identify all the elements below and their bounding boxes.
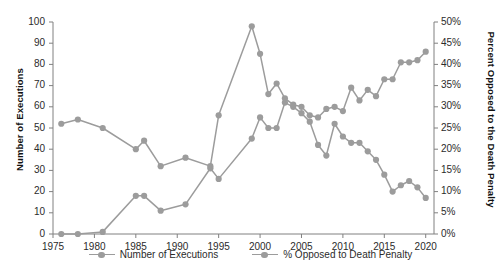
plot-area <box>0 0 501 272</box>
data-point <box>389 189 395 195</box>
y-axis-left-tick: 90 <box>11 37 45 48</box>
data-point <box>423 49 429 55</box>
data-point <box>340 108 346 114</box>
data-point <box>398 182 404 188</box>
legend-label-executions: Number of Executions <box>120 249 218 260</box>
data-point <box>340 133 346 139</box>
data-point <box>282 95 288 101</box>
data-point <box>381 172 387 178</box>
y-axis-right-tick: 5% <box>441 206 481 217</box>
data-point <box>182 201 188 207</box>
data-point <box>365 87 371 93</box>
data-point <box>356 97 362 103</box>
y-axis-right-tick: 25% <box>441 122 481 133</box>
data-point <box>100 229 106 235</box>
data-point <box>356 140 362 146</box>
data-point <box>75 231 81 237</box>
series-opposed <box>58 23 429 169</box>
data-point <box>100 125 106 131</box>
data-point <box>348 85 354 91</box>
data-point <box>265 125 271 131</box>
data-point <box>332 104 338 110</box>
y-axis-left-tick: 10 <box>11 206 45 217</box>
data-point <box>323 152 329 158</box>
chart-legend: Number of Executions % Opposed to Death … <box>0 249 501 260</box>
y-axis-left-tick: 60 <box>11 100 45 111</box>
data-point <box>315 114 321 120</box>
data-point <box>216 112 222 118</box>
y-axis-left-tick: 20 <box>11 185 45 196</box>
data-point <box>332 121 338 127</box>
y-axis-left-tick: 50 <box>11 122 45 133</box>
y-axis-right-tick: 0% <box>441 228 481 239</box>
data-point <box>373 157 379 163</box>
data-point <box>307 112 313 118</box>
data-point <box>389 76 395 82</box>
data-point <box>398 59 404 65</box>
data-point <box>414 57 420 63</box>
data-point <box>274 125 280 131</box>
data-point <box>365 148 371 154</box>
legend-item-opposed: % Opposed to Death Penalty <box>252 249 412 260</box>
data-point <box>216 176 222 182</box>
data-point <box>75 116 81 122</box>
legend-label-opposed: % Opposed to Death Penalty <box>283 249 412 260</box>
data-point <box>58 231 64 237</box>
series-executions <box>58 99 429 237</box>
y-axis-right-tick: 45% <box>441 37 481 48</box>
y-axis-right-tick: 35% <box>441 79 481 90</box>
data-point <box>158 163 164 169</box>
data-point <box>406 59 412 65</box>
y-axis-left-tick: 80 <box>11 58 45 69</box>
y-axis-right-tick: 40% <box>441 58 481 69</box>
data-point <box>58 121 64 127</box>
data-point <box>307 119 313 125</box>
dual-axis-line-chart: Number of Executions Percent Opposed to … <box>0 0 501 272</box>
data-point <box>290 102 296 108</box>
data-point <box>257 114 263 120</box>
data-point <box>348 140 354 146</box>
data-point <box>274 80 280 86</box>
y-axis-left-tick: 70 <box>11 79 45 90</box>
data-point <box>298 110 304 116</box>
legend-marker-executions <box>89 254 115 255</box>
y-axis-right-tick: 50% <box>441 16 481 27</box>
data-point <box>141 138 147 144</box>
data-point <box>249 136 255 142</box>
data-point <box>315 142 321 148</box>
data-point <box>133 146 139 152</box>
data-point <box>298 104 304 110</box>
data-point <box>423 195 429 201</box>
data-point <box>323 106 329 112</box>
data-point <box>141 193 147 199</box>
y-axis-right-tick: 20% <box>441 143 481 154</box>
data-point <box>158 208 164 214</box>
y-axis-right-tick: 15% <box>441 164 481 175</box>
y-axis-right-tick: 10% <box>441 185 481 196</box>
y-axis-left-tick: 0 <box>11 228 45 239</box>
y-axis-left-tick: 40 <box>11 143 45 154</box>
data-point <box>249 23 255 29</box>
data-point <box>406 178 412 184</box>
legend-item-executions: Number of Executions <box>89 249 218 260</box>
data-point <box>265 91 271 97</box>
data-point <box>257 51 263 57</box>
data-point <box>373 93 379 99</box>
legend-marker-opposed <box>252 254 278 255</box>
y-axis-left-tick: 30 <box>11 164 45 175</box>
y-axis-right-tick: 30% <box>441 100 481 111</box>
y-axis-left-tick: 100 <box>11 16 45 27</box>
data-point <box>182 155 188 161</box>
data-point <box>133 193 139 199</box>
data-point <box>207 163 213 169</box>
data-point <box>381 76 387 82</box>
data-point <box>414 184 420 190</box>
